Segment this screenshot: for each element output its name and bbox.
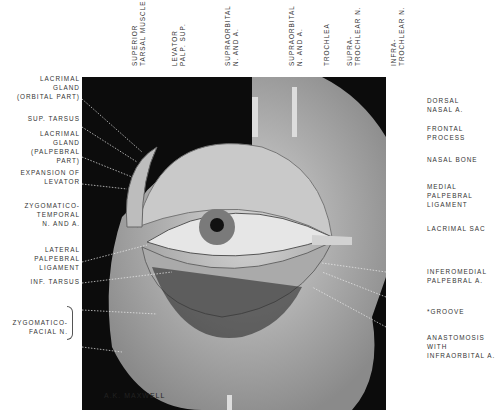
label-expansion-of-levator: EXPANSION OF LEVATOR <box>2 168 80 186</box>
label-lacrimal-gland-orbital-part: LACRIMAL GLAND (ORBITAL PART) <box>2 74 80 101</box>
label-supratrochlear-n: SUPRA- TROCHLEAR N. <box>346 6 362 66</box>
artist-signature: A.K. MAXWELL <box>104 391 165 400</box>
label-lacrimal-sac: LACRIMAL SAC <box>427 224 486 233</box>
label-inf-tarsus: INF. TARSUS <box>2 277 80 286</box>
label-levator-palp-sup: LEVATOR PALP. SUP. <box>171 23 187 66</box>
label-superior-tarsal-muscle: SUPERIOR TARSAL MUSCLE <box>131 0 147 66</box>
label-trochlea: TROCHLEA <box>323 23 331 66</box>
label-frontal-process: FRONTAL PROCESS <box>427 124 465 142</box>
label-supraorbital-n-and-a-2: SUPRAORBITAL N. AND A. <box>288 5 304 66</box>
label-infratrochlear-n: INFRA- TROCHLEAR N. <box>390 6 406 66</box>
label-dorsal-nasal-a: DORSAL NASAL A. <box>427 96 463 114</box>
label-sup-tarsus: SUP. TARSUS <box>2 114 80 123</box>
anatomical-illustration: A.K. MAXWELL <box>82 77 386 410</box>
label-medial-palpebral-ligament: MEDIAL PALPEBRAL LIGAMENT <box>427 182 473 209</box>
label-lateral-palpebral-ligament: LATERAL PALPEBRAL LIGAMENT <box>2 245 80 272</box>
eyelid-dissection-drawing <box>82 77 386 410</box>
brace <box>67 306 73 340</box>
label-zygomaticotemporal-n-and-a: ZYGOMATICO- TEMPORAL N. AND A. <box>2 201 80 228</box>
label-groove: *GROOVE <box>427 307 465 316</box>
label-supraorbital-n-and-a: SUPRAORBITAL N. AND A. <box>224 5 240 66</box>
label-zygomaticofacial-n: ZYGOMATICO- FACIAL N. <box>2 318 68 336</box>
label-nasal-bone: NASAL BONE <box>427 155 478 164</box>
label-anastomosis-with-infraorbital-a: ANASTOMOSIS WITH INFRAORBITAL A. <box>427 333 495 360</box>
label-lacrimal-gland-palpebral-part: LACRIMAL GLAND (PALPEBRAL PART) <box>2 129 80 165</box>
label-inferomedial-palpebral-a: INFEROMEDIAL PALPEBRAL A. <box>427 267 487 285</box>
